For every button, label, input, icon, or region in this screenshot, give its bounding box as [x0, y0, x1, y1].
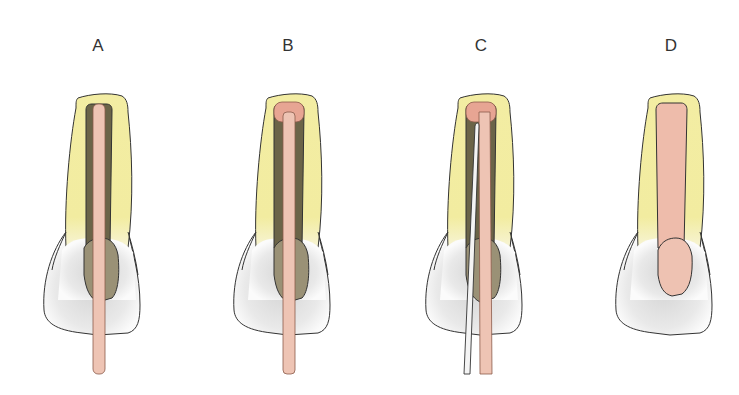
panel-label-c: C	[461, 36, 501, 56]
panel-c-tooth	[426, 94, 522, 374]
post	[479, 112, 492, 374]
panel-label-a: A	[78, 36, 118, 56]
panel-label-d: D	[651, 36, 691, 56]
panel-d-tooth	[616, 94, 712, 335]
panel-label-b: B	[268, 36, 308, 56]
panel-b-tooth	[234, 94, 330, 374]
post	[93, 104, 105, 374]
core-crown-portion	[658, 238, 692, 296]
panel-a-tooth	[44, 94, 140, 374]
figure-canvas	[0, 0, 739, 395]
post-core	[656, 103, 687, 248]
post	[283, 112, 295, 374]
